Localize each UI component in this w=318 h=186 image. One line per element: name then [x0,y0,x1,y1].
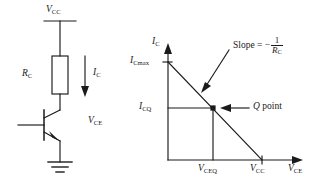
dc-load-line [168,62,262,160]
label-vcc: VCC [46,5,61,15]
label-ic-circuit: IC [93,68,101,78]
label-vce: VCE [88,116,102,126]
npn-transistor-icon [18,110,60,162]
figure-canvas [0,0,318,186]
label-rc: RC [22,69,32,79]
figure-root: VCC RC IC VCE IC ICmax ICQ VCEQ VCC VCE … [0,0,318,186]
label-vceq: VCEQ [198,164,217,174]
slope-annotation-arrow [201,50,229,93]
slope-denominator: RC [271,45,283,55]
q-point-marker [210,105,215,110]
current-arrow-icon [81,56,89,97]
label-axis-vce: VCE [288,164,302,174]
annotation-q-point: Q point [253,102,282,112]
label-icmax: ICmax [130,56,149,66]
label-vcc-axis: VCC [250,164,265,174]
resistor-icon [52,56,68,94]
annotation-slope: Slope = −1RC [233,36,283,55]
circuit-diagram [18,21,89,172]
ground-icon [48,162,72,172]
y-axis [164,43,172,160]
slope-fraction: 1RC [271,36,283,55]
label-axis-ic: IC [152,37,160,47]
x-axis [168,156,303,164]
load-line-graph [163,43,303,164]
q-point-annotation-arrow [220,104,249,112]
label-icq: ICQ [139,102,151,112]
